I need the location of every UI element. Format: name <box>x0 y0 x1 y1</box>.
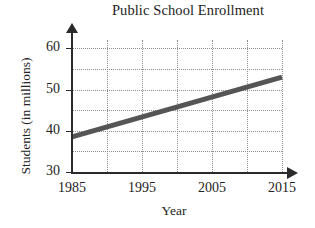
x-tick-label-2015: 2015 <box>255 180 309 196</box>
series-line-enrollment <box>72 40 282 172</box>
plot-area <box>72 40 282 172</box>
y-tick-30 <box>66 172 72 173</box>
x-axis-line <box>71 172 289 174</box>
x-tick-label-2005: 2005 <box>185 180 239 196</box>
x-tick-label-1995: 1995 <box>115 180 169 196</box>
gridline-x-2015 <box>282 40 283 172</box>
y-tick-label-50: 50 <box>26 81 60 97</box>
y-tick-40 <box>66 131 72 132</box>
y-tick-50 <box>66 90 72 91</box>
x-axis-title: Year <box>68 203 280 219</box>
chart-figure: Public School Enrollment Students (in mi… <box>0 0 315 228</box>
y-tick-label-40: 40 <box>26 122 60 138</box>
y-axis-line <box>71 31 73 173</box>
y-tick-label-60: 60 <box>26 39 60 55</box>
y-tick-label-30: 30 <box>26 163 60 179</box>
y-axis-arrow-icon <box>66 23 78 33</box>
x-axis-arrow-icon <box>287 167 298 179</box>
chart-title: Public School Enrollment <box>68 2 308 19</box>
x-tick-label-1985: 1985 <box>45 180 99 196</box>
trend-line <box>72 77 282 137</box>
y-tick-60 <box>66 48 72 49</box>
